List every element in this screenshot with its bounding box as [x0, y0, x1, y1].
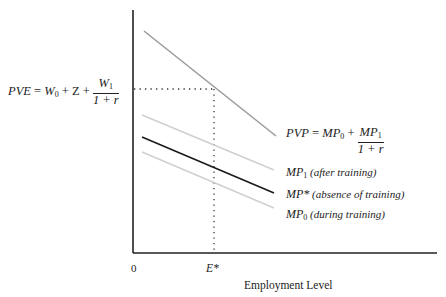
- pvp-lhs: PVP: [286, 126, 309, 140]
- pve-w0: W: [44, 84, 54, 98]
- mp-star-desc: (absence of training): [309, 188, 404, 200]
- e-star-label: E*: [206, 262, 219, 274]
- mp-star-label: MP* (absence of training): [286, 187, 404, 202]
- mp1-label: MP1 (after training): [286, 165, 376, 180]
- pvp-eq: =: [309, 126, 322, 140]
- pvp-num-sub: 1: [378, 131, 382, 140]
- mp1-name: MP: [286, 165, 303, 179]
- mp1-line: [142, 115, 274, 170]
- pve-eq: =: [31, 84, 44, 98]
- mp1-desc: (after training): [307, 166, 376, 178]
- pve-fraction: W11 + r: [93, 77, 119, 107]
- pve-plus: + Z +: [59, 84, 93, 98]
- pve-equation: PVE = W0 + Z + W11 + r: [8, 77, 119, 107]
- pve-lhs: PVE: [8, 84, 31, 98]
- mp0-line: [142, 152, 274, 208]
- mp-star-name: MP*: [286, 187, 309, 201]
- x-axis-label: Employment Level: [244, 279, 332, 291]
- mp-star-line: [142, 137, 274, 193]
- mp0-desc: (during training): [307, 208, 385, 220]
- mp0-label: MP0 (during training): [286, 207, 385, 222]
- pvp-plus: +: [344, 126, 357, 140]
- pvp-equation: PVP = MP0 + MP11 + r: [286, 126, 384, 156]
- pvp-mp0: MP: [322, 126, 340, 140]
- origin-label: 0: [131, 262, 137, 274]
- pve-num: W: [99, 76, 109, 90]
- pvp-fraction: MP11 + r: [358, 126, 384, 156]
- pve-num-sub: 1: [109, 82, 113, 91]
- pvp-num: MP: [360, 125, 378, 139]
- pvp-den: 1 + r: [358, 143, 384, 156]
- pvp-line: [144, 31, 276, 136]
- mp0-name: MP: [286, 207, 303, 221]
- pve-den: 1 + r: [93, 94, 119, 107]
